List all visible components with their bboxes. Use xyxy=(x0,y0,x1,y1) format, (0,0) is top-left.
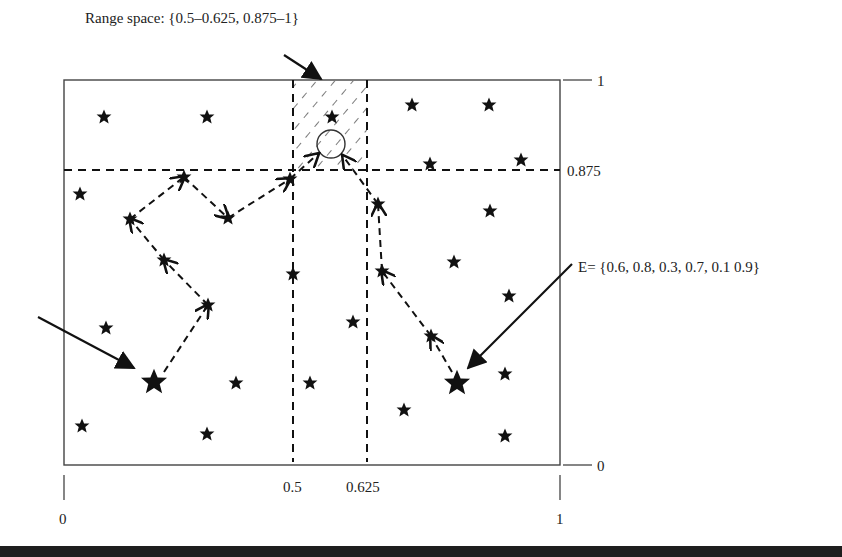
star-icon xyxy=(483,203,498,217)
x-label-0.625: 0.625 xyxy=(346,479,380,495)
range-space-label: Range space: {0.5–0.625, 0.875–1} xyxy=(85,10,299,26)
star-icon xyxy=(157,252,172,266)
star-icon xyxy=(201,297,216,311)
star-icon xyxy=(423,156,438,170)
star-icon xyxy=(498,366,513,380)
star-icon xyxy=(375,263,390,277)
star-icon xyxy=(99,320,114,334)
star-icon xyxy=(405,97,420,111)
star-icon xyxy=(229,375,244,389)
star-icon xyxy=(482,97,497,111)
star-icon xyxy=(424,328,439,342)
start-star-left-icon xyxy=(141,369,167,394)
star-icon xyxy=(447,254,462,268)
star-icon xyxy=(397,402,412,416)
right-particle-path xyxy=(343,156,452,372)
y-label-0: 0 xyxy=(597,458,605,474)
e-set-label: E= {0.6, 0.8, 0.3, 0.7, 0.1 0.9} xyxy=(578,259,760,275)
star-icon xyxy=(303,375,318,389)
x-label-0: 0 xyxy=(59,511,67,527)
y-label-1: 1 xyxy=(597,73,605,89)
star-icon xyxy=(75,418,90,432)
star-icon xyxy=(200,109,215,123)
star-icon xyxy=(97,109,112,123)
start-pointer-arrow-left xyxy=(38,317,134,368)
x-label-0.5: 0.5 xyxy=(283,479,302,495)
diagram-canvas: Range space: {0.5–0.625, 0.875–1} E= {0.… xyxy=(0,0,842,557)
x-label-1: 1 xyxy=(556,511,564,527)
star-icon xyxy=(346,314,361,328)
e-set-pointer-arrow xyxy=(468,264,572,368)
star-icon xyxy=(498,428,513,442)
star-icon xyxy=(514,152,529,166)
range-space-region xyxy=(293,81,367,170)
y-label-0.875: 0.875 xyxy=(567,163,601,179)
bottom-border-bar xyxy=(0,546,842,557)
star-icon xyxy=(200,426,215,440)
star-icon xyxy=(73,186,88,200)
range-space-pointer-arrow xyxy=(284,55,321,79)
star-icon xyxy=(123,211,138,225)
left-particle-path xyxy=(130,154,318,372)
star-icon xyxy=(502,288,517,302)
start-star-right-icon xyxy=(444,370,470,395)
